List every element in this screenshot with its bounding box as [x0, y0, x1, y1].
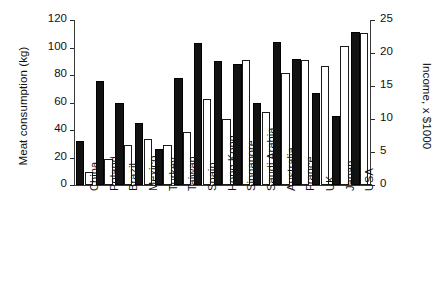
- x-axis-category-label: Poland: [108, 156, 120, 191]
- bar-group: [75, 20, 95, 185]
- y-axis-right-tick-label: 25: [380, 12, 410, 24]
- x-axis-category-label: China: [88, 162, 100, 191]
- y-axis-right-tick-label: 0: [380, 177, 410, 189]
- y-axis-right-tickmark: [371, 152, 375, 153]
- meat-consumption-income-chart: Meat consumption (kg) Income, x $1000 02…: [0, 0, 436, 287]
- x-axis-category-label: Turkey: [167, 157, 179, 191]
- y-axis-left-tick-label: 0: [37, 177, 67, 189]
- y-axis-left-tickmark: [70, 48, 74, 49]
- y-axis-left-tick-label: 60: [37, 95, 67, 107]
- bar-income: [321, 66, 329, 185]
- y-axis-right-tick-label: 10: [380, 111, 410, 123]
- x-axis-category-label: Japan: [344, 161, 356, 191]
- y-axis-right-tickmark: [371, 86, 375, 87]
- x-axis-category-label: USA: [363, 168, 375, 191]
- y-axis-right-tickmark: [371, 20, 375, 21]
- y-axis-right-line: [370, 20, 371, 186]
- x-axis-category-label: UK: [324, 176, 336, 191]
- y-axis-left-tickmark: [70, 185, 74, 186]
- y-axis-left-tick-label: 80: [37, 67, 67, 79]
- y-axis-left-tickmark: [70, 20, 74, 21]
- y-axis-left-tick-label: 40: [37, 122, 67, 134]
- x-axis-category-label: Australia: [285, 147, 297, 191]
- x-axis-category-label: Spain: [206, 162, 218, 191]
- y-axis-left-tickmark: [70, 130, 74, 131]
- y-axis-right-tick-label: 5: [380, 144, 410, 156]
- y-axis-left-tickmark: [70, 158, 74, 159]
- x-axis-category-label: Saudi Arabia: [265, 127, 277, 191]
- x-axis-category-label: Singapore: [245, 140, 257, 191]
- y-axis-left-tick-label: 120: [37, 12, 67, 24]
- x-axis-category-label: Mexico: [147, 156, 159, 191]
- y-axis-left-tick-label: 20: [37, 150, 67, 162]
- y-axis-left-title: Meat consumption (kg): [17, 31, 29, 181]
- y-axis-right-tickmark: [371, 53, 375, 54]
- x-axis-category-label: Taiwan: [186, 156, 198, 191]
- y-axis-left-tick-label: 100: [37, 40, 67, 52]
- y-axis-left-tickmark: [70, 75, 74, 76]
- bar-meat-consumption: [76, 141, 84, 185]
- x-axis-category-label: Brazil: [127, 163, 139, 191]
- y-axis-right-tickmark: [371, 119, 375, 120]
- x-axis-category-label: Hong Kong: [226, 135, 238, 191]
- bar-income: [360, 33, 368, 185]
- x-axis-category-label: France: [304, 156, 316, 191]
- y-axis-right-title: Income, x $1000: [421, 31, 433, 181]
- y-axis-left-tickmark: [70, 103, 74, 104]
- y-axis-right-tick-label: 20: [380, 45, 410, 57]
- y-axis-right-tick-label: 15: [380, 78, 410, 90]
